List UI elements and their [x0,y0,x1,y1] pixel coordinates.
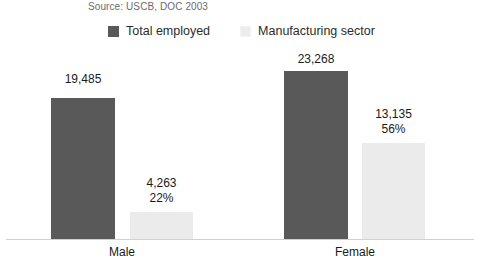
bar-female-manufacturing [362,143,425,239]
bar-male-total-employed [51,98,115,239]
bar-male-manufacturing [130,212,193,239]
bar-percent-female-manufacturing: 56% [362,122,425,137]
bar-value-male-manufacturing: 4,263 [130,176,193,191]
category-label-female: Female [315,245,395,259]
bar-label-female-total-employed: 23,268 [284,52,348,67]
bar-percent-male-manufacturing: 22% [130,191,193,206]
bar-chart: Source: USCB, DOC 2003 Total employed Ma… [0,0,480,265]
bar-value-male-total-employed: 19,485 [51,72,115,87]
bar-female-total-employed [284,71,348,239]
bar-label-female-manufacturing: 13,135 56% [362,107,425,137]
bar-value-female-total-employed: 23,268 [284,52,348,67]
bar-value-female-manufacturing: 13,135 [362,107,425,122]
bar-label-male-manufacturing: 4,263 22% [130,176,193,206]
bar-label-male-total-employed: 19,485 [51,72,115,87]
plot-area: 19,485 4,263 22% 23,268 13,135 56% Male … [0,0,480,265]
category-label-male: Male [82,245,162,259]
axis-baseline [6,239,474,240]
